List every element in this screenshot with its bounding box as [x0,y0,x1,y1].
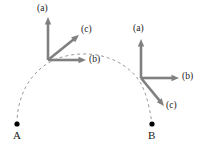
point-marker-b [149,121,154,126]
point-label-b: B [148,130,155,141]
axis-arrow-right-a [138,39,144,78]
axis-label-right-a: (a) [133,24,144,34]
diagram-graphics [0,0,202,147]
point-label-a: A [13,130,21,141]
axis-label-left-b: (b) [89,55,100,65]
axis-arrow-left-c [48,35,79,60]
axis-label-left-a: (a) [37,4,48,14]
axis-arrow-right-b [141,75,179,81]
triad-right [138,39,179,106]
axis-label-left-c: (c) [81,25,92,35]
point-marker-a [14,121,19,126]
axis-label-right-b: (b) [182,72,193,82]
figure-canvas: (a) (b) (c) (a) (b) (c) A B [0,0,202,147]
axis-arrow-left-b [48,57,86,63]
axis-arrow-right-c [141,78,164,106]
dashed-trajectory-curve [17,54,152,124]
axis-label-right-c: (c) [166,101,177,111]
axis-arrow-left-a [45,17,51,60]
